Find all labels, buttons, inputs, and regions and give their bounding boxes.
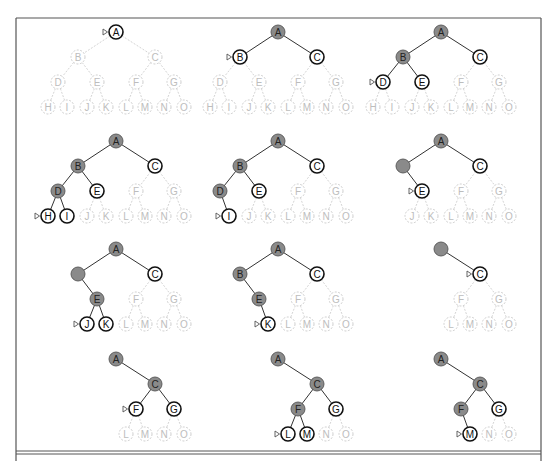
node-B: B — [71, 50, 85, 64]
node-C: C — [473, 159, 487, 173]
node-G: G — [329, 402, 343, 416]
node-F: F — [291, 292, 305, 306]
node-F: F — [129, 402, 143, 416]
node-label: E — [419, 77, 426, 88]
node-label: A — [113, 354, 120, 365]
node-O: O — [339, 317, 353, 331]
node-K: K — [261, 209, 275, 223]
node-A: A — [109, 242, 123, 256]
node-label: E — [256, 186, 263, 197]
node-F: F — [454, 292, 468, 306]
node-label: I — [66, 211, 69, 222]
node-label: F — [458, 294, 464, 305]
node-label: F — [458, 77, 464, 88]
current-pointer-icon — [255, 321, 260, 327]
node-label: F — [295, 404, 301, 415]
node-label: C — [476, 379, 483, 390]
node-label: D — [216, 186, 223, 197]
node-label: A — [275, 244, 282, 255]
node-A: A — [109, 352, 123, 366]
node-K: K — [99, 100, 113, 114]
node-label: F — [133, 294, 139, 305]
node-F: F — [129, 184, 143, 198]
node-label: G — [170, 404, 178, 415]
node-B: B — [233, 159, 247, 173]
node-M: M — [300, 100, 314, 114]
node-E: E — [90, 292, 104, 306]
node-L: L — [119, 317, 133, 331]
node-M: M — [463, 209, 477, 223]
node-label: A — [113, 136, 120, 147]
node-label: C — [151, 379, 158, 390]
node-label: O — [342, 429, 350, 440]
panel-step-7: ACEFGJKLMNO — [71, 242, 191, 331]
node-label: H — [44, 102, 51, 113]
node-label: H — [206, 102, 213, 113]
node-G: G — [167, 292, 181, 306]
node-label: D — [54, 77, 61, 88]
node-label: J — [410, 211, 415, 222]
node-A: A — [271, 25, 285, 39]
node-N: N — [157, 317, 171, 331]
node-label: M — [141, 319, 149, 330]
node-label: N — [322, 211, 329, 222]
current-pointer-icon — [35, 213, 40, 219]
node-label: L — [285, 429, 291, 440]
figure-frame: ABCDEFGHIJKLMNOABCDEFGHIJKLMNOABCDEFGHIJ… — [0, 0, 549, 461]
node-label: A — [275, 354, 282, 365]
node-G: G — [492, 402, 506, 416]
node-label: I — [228, 211, 231, 222]
current-pointer-icon — [275, 431, 280, 437]
node-A: A — [434, 25, 448, 39]
node-C: C — [473, 377, 487, 391]
node-C: C — [148, 267, 162, 281]
node-label: K — [103, 319, 110, 330]
node-J: J — [242, 100, 256, 114]
node-label: O — [180, 102, 188, 113]
node-label: B — [237, 52, 244, 63]
node-label: O — [505, 429, 513, 440]
node-label: J — [410, 102, 415, 113]
node-K: K — [99, 209, 113, 223]
node-label: O — [180, 429, 188, 440]
current-pointer-icon — [370, 79, 375, 85]
node-label: L — [448, 102, 454, 113]
node-N: N — [482, 209, 496, 223]
node-J: J — [405, 209, 419, 223]
node-L: L — [444, 317, 458, 331]
node-label: K — [103, 211, 110, 222]
node-label: B — [75, 161, 82, 172]
node-E: E — [415, 75, 429, 89]
node-label: G — [495, 186, 503, 197]
node-O: O — [177, 209, 191, 223]
node-I: I — [385, 100, 399, 114]
node-N: N — [157, 209, 171, 223]
node-E: E — [415, 184, 429, 198]
node-label: M — [466, 319, 474, 330]
panel-step-10: ACFGLMNO — [109, 352, 191, 441]
node-N: N — [157, 427, 171, 441]
node-O: O — [502, 100, 516, 114]
node-L: L — [281, 427, 295, 441]
node-D: D — [376, 75, 390, 89]
current-pointer-icon — [216, 213, 221, 219]
panel-step-2: ABCDEFGHIJKLMNO — [203, 25, 353, 114]
node-B — [396, 159, 410, 173]
node-N: N — [319, 209, 333, 223]
node-label: F — [295, 77, 301, 88]
node-label: B — [400, 52, 407, 63]
node-label: J — [247, 102, 252, 113]
node-M: M — [463, 427, 477, 441]
node-O: O — [502, 427, 516, 441]
node-label: C — [476, 52, 483, 63]
node-L: L — [444, 209, 458, 223]
node-B: B — [233, 267, 247, 281]
node-G: G — [167, 402, 181, 416]
node-label: C — [151, 161, 158, 172]
node-B: B — [71, 159, 85, 173]
node-label: C — [151, 269, 158, 280]
node-label: E — [94, 294, 101, 305]
node-label: F — [458, 186, 464, 197]
node-label: M — [466, 102, 474, 113]
node-label: A — [113, 27, 120, 38]
